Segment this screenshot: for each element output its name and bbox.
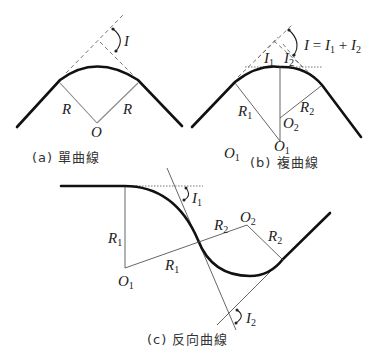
caption-compound-curve: (b) 複曲線 <box>250 155 319 170</box>
panel-b-compound-curve: I = I1 + I2 I1 I2 R1 R2 O2 O1 O1 (b) 複曲線 <box>192 24 361 170</box>
angle-label-i2: I2 <box>245 310 256 328</box>
radius-label-r1-diag: R1 <box>164 257 179 275</box>
arc-endpoint <box>287 28 290 31</box>
center-label-o2: O2 <box>240 209 256 227</box>
tangent-line-left <box>66 15 123 73</box>
panel-a-simple-curve: I R R O (a) 單曲線 <box>17 15 182 165</box>
total-angle-arc <box>289 30 297 55</box>
center-label-o2: O2 <box>283 115 299 133</box>
compound-curve-path <box>192 67 361 137</box>
stray-center-label-o1: O1 <box>224 145 240 163</box>
center-label-o1: O1 <box>274 138 290 156</box>
arc-endpoint <box>183 199 186 202</box>
radius-label-r1: R1 <box>237 103 252 121</box>
intersection-angle-arc <box>113 29 120 51</box>
equation-total-angle: I = I1 + I2 <box>303 37 361 55</box>
radius-label-r1-vertical: R1 <box>107 230 122 248</box>
caption-reverse-curve: (c) 反向曲線 <box>147 332 228 347</box>
radius-label-right: R <box>122 101 132 117</box>
panel-c-reverse-curve: I1 I2 R1 R1 R2 R2 O1 O2 (c) 反向曲線 <box>61 168 330 347</box>
radius-label-r2-right: R2 <box>267 228 282 246</box>
arc-endpoint <box>114 49 117 52</box>
angle-label-i2: I2 <box>283 50 294 68</box>
radius-label-left: R <box>61 101 71 117</box>
angle-label-i: I <box>123 33 130 49</box>
arc-endpoint <box>235 322 238 325</box>
center-label-o1: O1 <box>118 273 134 291</box>
simple-curve-path <box>17 67 182 128</box>
radius-label-r2: R2 <box>299 99 314 117</box>
angle-arc-i1 <box>184 188 189 200</box>
arc-endpoint <box>185 187 188 190</box>
center-connecting-line <box>125 225 247 268</box>
angle-arc-i2 <box>236 310 241 323</box>
caption-simple-curve: (a) 單曲線 <box>32 150 100 165</box>
angle-label-i1: I1 <box>191 190 202 208</box>
center-label-o: O <box>91 124 102 140</box>
radius-label-r2-diag: R2 <box>213 217 228 235</box>
curve-types-diagram: I R R O (a) 單曲線 I = I1 + I2 I1 I2 R1 R2 <box>0 0 370 356</box>
arc-endpoint <box>111 27 114 30</box>
angle-label-i1: I1 <box>263 50 274 68</box>
arc-endpoint <box>236 309 239 312</box>
